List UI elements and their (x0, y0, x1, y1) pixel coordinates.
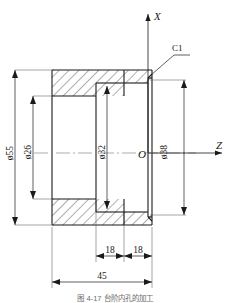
dim-label-dia-26: ø26 (23, 145, 33, 160)
z-axis-label: Z (216, 139, 223, 151)
drawing-sheet: X Z O C1 ø55 ø26 (0, 0, 231, 303)
chamfer-note-label: C1 (172, 43, 183, 53)
dim-label-18-right: 18 (133, 245, 143, 255)
dim-label-dia-55: ø55 (5, 146, 15, 161)
dim-label-18-left: 18 (105, 245, 115, 255)
origin-label: O (138, 148, 146, 160)
dim-label-dia-32: ø32 (97, 145, 107, 160)
figure-caption: 图 4-17 台阶内孔的加工 (77, 293, 153, 303)
technical-drawing-canvas: X Z O C1 ø55 ø26 (0, 0, 231, 303)
sheet-background (0, 0, 231, 303)
dim-label-dia-38: ø38 (159, 145, 169, 160)
x-axis-label: X (153, 10, 162, 22)
dim-label-45: 45 (97, 271, 107, 281)
